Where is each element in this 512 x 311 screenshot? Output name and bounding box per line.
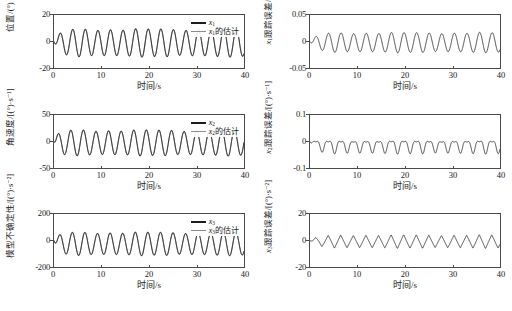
legend-line-estimate [191,230,206,231]
ytick-label: 0.1 [296,110,306,119]
ytick-label: -200 [35,263,50,272]
xtick-mark [405,166,406,169]
xtick-label: 0 [51,171,55,180]
xlabel: 时间/s [53,81,245,92]
legend-line-true [191,122,206,124]
xtick-mark [500,265,501,268]
ytick-label: -0.1 [293,164,306,173]
ytick-label: -0.05 [289,64,306,73]
ytick-label: 20 [42,10,50,19]
xtick-mark [453,66,454,69]
xtick-label: 0 [307,71,311,80]
xtick-label: 30 [449,171,458,180]
series-group [310,141,500,154]
xtick-label: 30 [193,270,202,279]
plot-area-model-uncertainty: x3 x3的估计 [53,213,245,268]
plot-area-x1-tracking-error [309,14,501,69]
xtick-mark [197,166,198,169]
xtick-label: 40 [241,71,250,80]
legend-entry: x2的估计 [191,127,239,136]
xtick-mark [244,66,245,69]
xtick-label: 0 [51,270,55,279]
xtick-label: 40 [241,270,250,279]
xlabel: 时间/s [309,81,501,92]
xtick-mark [244,166,245,169]
xtick-mark [357,166,358,169]
xtick-mark [405,265,406,268]
legend-label: x1的估计 [209,27,239,37]
legend-angular-velocity: x2 x2的估计 [189,117,241,137]
ytick-group-x3-tracking-error: 20 0 -20 [256,213,306,268]
xtick-label: 0 [307,171,311,180]
xtick-label: 40 [497,270,506,279]
xtick-label: 0 [307,270,311,279]
xtick-mark [309,166,310,169]
xtick-mark [197,265,198,268]
panel-position: 位置/(°) 20 0 -20 x1 x1的估计 010203040 [0,2,256,102]
legend-entry: x3的估计 [191,226,239,235]
xtick-mark [149,166,150,169]
legend-label: x2的估计 [209,127,239,137]
legend-entry: x1的估计 [191,27,239,36]
xtick-label: 10 [97,270,106,279]
xtick-mark [101,265,102,268]
xtick-mark [405,66,406,69]
ytick-label: 20 [298,209,306,218]
xtick-mark [453,166,454,169]
xtick-mark [53,265,54,268]
legend-line-estimate [191,131,206,132]
xtick-label: 40 [241,171,250,180]
xlabel: 时间/s [53,181,245,192]
xtick-label: 40 [497,171,506,180]
ytick-label: -20 [295,263,306,272]
series-trace [310,141,500,154]
xtick-mark [357,265,358,268]
xtick-mark [244,265,245,268]
plot-area-position: x1 x1的估计 [53,14,245,69]
xtick-mark [309,265,310,268]
xtick-label: 20 [145,270,154,279]
xtick-mark [500,66,501,69]
legend-model-uncertainty: x3 x3的估计 [189,216,241,236]
xtick-mark [101,66,102,69]
legend-position: x1 x1的估计 [189,17,241,37]
ytick-group-model-uncertainty: 200 0 -200 [0,213,50,268]
xlabel: 时间/s [309,280,501,291]
plot-area-angular-velocity: x2 x2的估计 [53,114,245,169]
xtick-mark [53,166,54,169]
legend-label: x3的估计 [209,226,239,236]
xtick-mark [197,66,198,69]
ytick-label: 0.05 [292,10,306,19]
xtick-label: 0 [51,71,55,80]
panel-x2-tracking-error: x2跟踪误差/[(°)·s⁻¹] 0.1 0 -0.1 010203040 时间… [256,102,512,202]
xtick-label: 20 [145,71,154,80]
plot-area-x2-tracking-error [309,114,501,169]
xtick-label: 40 [497,71,506,80]
xtick-label: 20 [401,270,410,279]
xtick-mark [149,265,150,268]
xtick-label: 30 [449,71,458,80]
xtick-label: 30 [193,71,202,80]
ytick-label: -20 [39,64,50,73]
xtick-mark [357,66,358,69]
ytick-label: 200 [38,209,50,218]
xlabel: 时间/s [309,181,501,192]
panel-x3-tracking-error: x3跟踪误差/[(°)·s⁻²] 20 0 -20 010203040 时间/s [256,201,512,301]
xtick-mark [53,66,54,69]
xtick-label: 20 [145,171,154,180]
series-group [310,32,500,52]
xtick-label: 20 [401,171,410,180]
xtick-label: 10 [353,270,362,279]
panel-angular-velocity: 角速度/[(°)·s⁻¹] 50 0 -50 x2 x2的估计 01 [0,102,256,202]
series-trace [310,32,500,52]
panel-x1-tracking-error: x1跟踪误差/(°) 0.05 0 -0.05 010203040 时间/s [256,2,512,102]
xtick-mark [500,166,501,169]
ytick-label: 50 [42,110,50,119]
xlabel: 时间/s [53,280,245,291]
legend-line-true [191,221,206,223]
xtick-label: 30 [193,171,202,180]
figure-canvas: 位置/(°) 20 0 -20 x1 x1的估计 010203040 [0,0,512,311]
series-group [310,235,500,248]
xtick-label: 20 [401,71,410,80]
xtick-mark [309,66,310,69]
